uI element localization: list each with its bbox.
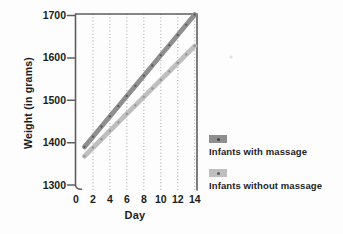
marker-dot-icon [217,138,220,141]
weight-by-day-line-chart: Weight (in grams) 1700 1600 1500 1400 13… [0,0,343,234]
legend-entry-with-massage: Infants with massage [209,135,307,157]
x-tick-label: 14 [185,193,205,206]
x-axis-title: Day [105,209,165,221]
legend-entry-without-massage: Infants without massage [209,169,322,191]
without-massage-line-swatch-icon [209,169,227,177]
marker-dot-icon [217,172,220,175]
plot-layers [68,14,233,190]
with-massage-line-swatch-icon [209,135,227,143]
legend-label-without-massage: Infants without massage [209,180,322,191]
legend-label-with-massage: Infants with massage [209,146,307,157]
